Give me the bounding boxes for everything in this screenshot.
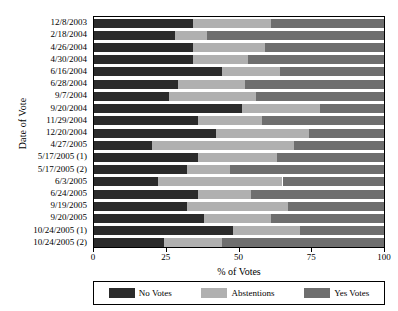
bar-segment-no-votes: [94, 141, 152, 150]
bar-row: [94, 19, 384, 28]
legend-swatch-no-votes: [109, 288, 135, 298]
bar-row: [94, 43, 384, 52]
bar-segment-abstentions: [198, 190, 250, 199]
bar-segment-no-votes: [94, 67, 222, 76]
bar-segment-yes-votes: [248, 55, 384, 64]
bar-segment-no-votes: [94, 80, 178, 89]
y-axis-tick-label: 10/24/2005 (2): [33, 236, 87, 248]
y-axis-tick-label: 9/20/2004: [50, 102, 87, 114]
legend-item-no-votes: No Votes: [109, 288, 172, 298]
legend-label-yes-votes: Yes Votes: [334, 288, 369, 298]
bar-segment-yes-votes: [283, 177, 385, 186]
bar-segment-yes-votes: [300, 226, 384, 235]
bar-segment-abstentions: [193, 55, 248, 64]
y-axis-tick-label: 4/27/2005: [50, 138, 87, 150]
bar-segment-abstentions: [178, 80, 245, 89]
bar-row: [94, 129, 384, 138]
bar-segment-no-votes: [94, 19, 193, 28]
bar-segment-yes-votes: [271, 214, 384, 223]
x-axis-ticks: 0255075100: [93, 248, 385, 254]
bar-segment-yes-votes: [230, 165, 384, 174]
bar-segment-no-votes: [94, 153, 198, 162]
bar-segment-abstentions: [198, 116, 262, 125]
bar-row: [94, 31, 384, 40]
bar-row: [94, 80, 384, 89]
bar-segment-abstentions: [233, 226, 300, 235]
bar-segment-yes-votes: [245, 80, 384, 89]
bar-segment-abstentions: [169, 92, 256, 101]
bar-segment-no-votes: [94, 55, 193, 64]
bar-row: [94, 190, 384, 199]
bar-row: [94, 177, 384, 186]
bar-segment-abstentions: [242, 104, 320, 113]
legend-item-abstentions: Abstentions: [201, 288, 274, 298]
bars-container: [94, 17, 384, 247]
y-axis-tick-label: 9/20/2005: [50, 211, 87, 223]
y-axis-tick-label: 6/3/2005: [55, 175, 87, 187]
y-axis-tick-label: 5/17/2005 (1): [38, 150, 87, 162]
bar-row: [94, 202, 384, 211]
bar-segment-abstentions: [216, 129, 309, 138]
bar-row: [94, 153, 384, 162]
x-axis-title: % of Votes: [93, 266, 385, 277]
bar-segment-yes-votes: [265, 43, 384, 52]
bar-segment-abstentions: [152, 141, 294, 150]
x-axis-tick-label: 75: [307, 252, 316, 262]
bar-row: [94, 214, 384, 223]
y-axis-tick-label: 5/17/2005 (2): [38, 163, 87, 175]
bar-row: [94, 116, 384, 125]
bar-segment-yes-votes: [288, 202, 384, 211]
bar-row: [94, 238, 384, 247]
y-axis-tick-label: 4/30/2004: [50, 53, 87, 65]
y-axis-tick-label: 2/18/2004: [50, 28, 87, 40]
bar-segment-yes-votes: [222, 238, 384, 247]
y-axis-tick-label: 11/29/2004: [46, 114, 87, 126]
bar-segment-no-votes: [94, 190, 198, 199]
bar-segment-yes-votes: [280, 67, 384, 76]
bar-segment-no-votes: [94, 177, 158, 186]
y-axis-tick-label: 10/24/2005 (1): [33, 224, 87, 236]
y-axis-tick-label: 6/16/2004: [50, 65, 87, 77]
bar-row: [94, 165, 384, 174]
bar-segment-abstentions: [193, 19, 271, 28]
bar-row: [94, 67, 384, 76]
bar-row: [94, 141, 384, 150]
bar-segment-yes-votes: [277, 153, 384, 162]
bar-segment-no-votes: [94, 43, 193, 52]
bar-row: [94, 55, 384, 64]
legend-label-no-votes: No Votes: [139, 288, 172, 298]
plot-area: [93, 16, 385, 248]
y-axis-tick-label: 4/26/2004: [50, 41, 87, 53]
bar-row: [94, 104, 384, 113]
bar-segment-yes-votes: [320, 104, 384, 113]
x-axis-tick-label: 25: [161, 252, 170, 262]
x-axis-tick-label: 0: [91, 252, 96, 262]
bar-segment-yes-votes: [271, 19, 384, 28]
y-axis-tick-label: 12/20/2004: [46, 126, 87, 138]
legend-swatch-yes-votes: [304, 288, 330, 298]
bar-segment-no-votes: [94, 104, 242, 113]
bar-segment-no-votes: [94, 129, 216, 138]
bar-segment-abstentions: [187, 165, 231, 174]
bar-segment-no-votes: [94, 31, 175, 40]
bar-segment-no-votes: [94, 226, 233, 235]
bar-segment-abstentions: [198, 153, 276, 162]
chart-legend: No Votes Abstentions Yes Votes: [93, 281, 385, 305]
bar-segment-yes-votes: [309, 129, 384, 138]
bar-segment-abstentions: [158, 177, 283, 186]
bar-segment-abstentions: [164, 238, 222, 247]
bar-segment-abstentions: [187, 202, 289, 211]
bar-segment-abstentions: [222, 67, 280, 76]
bar-segment-yes-votes: [294, 141, 384, 150]
bar-segment-no-votes: [94, 202, 187, 211]
y-axis-tick-labels: 12/8/20032/18/20044/26/20044/30/20046/16…: [0, 16, 90, 248]
bar-segment-no-votes: [94, 214, 204, 223]
chart-figure: Date of Vote 12/8/20032/18/20044/26/2004…: [0, 0, 398, 311]
bar-segment-yes-votes: [256, 92, 384, 101]
bar-segment-no-votes: [94, 92, 169, 101]
y-axis-tick-label: 9/7/2004: [55, 89, 87, 101]
legend-label-abstentions: Abstentions: [231, 288, 274, 298]
x-axis-tick-label: 50: [234, 252, 243, 262]
bar-segment-yes-votes: [207, 31, 384, 40]
bar-segment-no-votes: [94, 165, 187, 174]
